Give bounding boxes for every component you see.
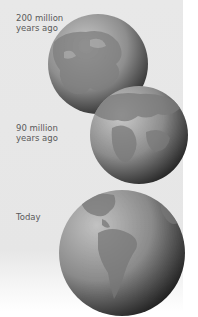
- label-90-million-years-ago: 90 million years ago: [16, 123, 58, 143]
- label-200-million-years-ago: 200 million years ago: [16, 13, 63, 33]
- label-today: Today: [16, 212, 41, 222]
- globe-today: [58, 189, 186, 317]
- globe-90-million-years-ago: [88, 84, 190, 186]
